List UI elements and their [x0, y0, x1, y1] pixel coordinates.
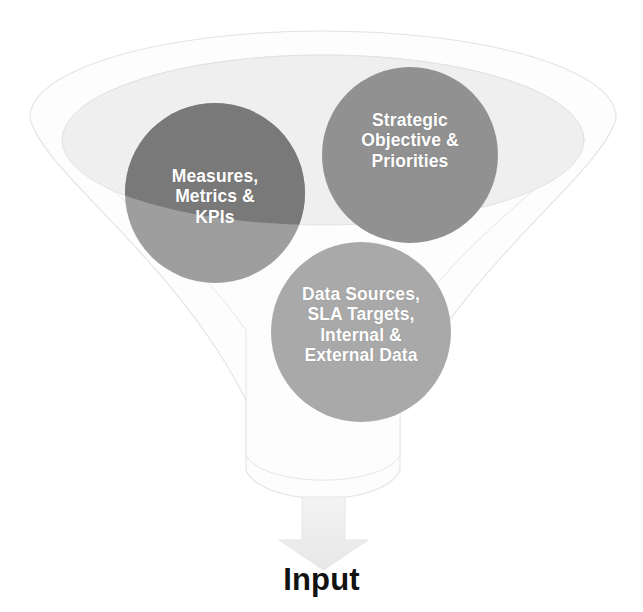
bubble-strategic-base: [322, 67, 498, 243]
down-arrow-icon: [279, 497, 368, 570]
diagram-canvas: Measures, Metrics & KPIs Strategic Objec…: [0, 0, 643, 612]
input-caption: Input: [0, 562, 643, 598]
down-arrow-shape: [279, 497, 368, 570]
bubble-strategic[interactable]: [322, 67, 498, 243]
bubble-datasources-base: [271, 242, 451, 422]
bubble-datasources[interactable]: [271, 242, 451, 422]
funnel-diagram-graphic: [0, 0, 643, 612]
